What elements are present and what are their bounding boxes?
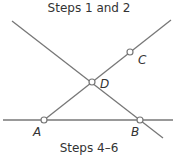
geometry-diagram: ABCD xyxy=(0,0,178,158)
point-d-marker xyxy=(89,79,95,85)
point-c-label: C xyxy=(138,53,147,67)
line-through-A-D-C xyxy=(44,20,171,120)
caption-steps-4-6: Steps 4–6 xyxy=(0,141,178,155)
point-b-label: B xyxy=(131,125,139,139)
point-b-marker xyxy=(137,117,143,123)
point-d-label: D xyxy=(100,77,109,91)
point-a-marker xyxy=(41,117,47,123)
point-a-label: A xyxy=(32,125,41,139)
construction-lines xyxy=(3,20,173,138)
labeled-points: ABCD xyxy=(32,49,147,139)
point-c-marker xyxy=(127,49,133,55)
